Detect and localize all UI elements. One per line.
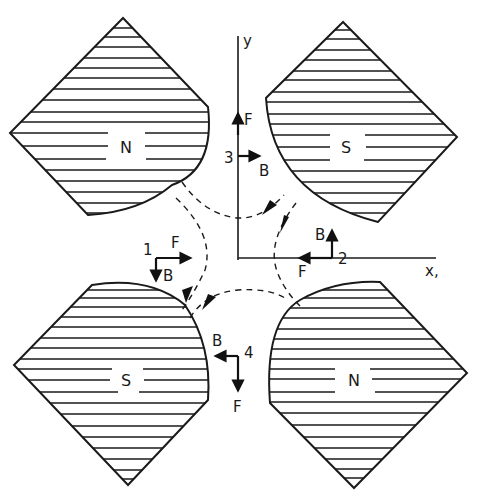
position-1-force-label: F xyxy=(171,236,180,251)
position-3-force-label: F xyxy=(244,113,253,128)
pole-top-right-south xyxy=(250,22,480,222)
position-2-force-label: F xyxy=(298,265,307,280)
y-axis-label: y xyxy=(243,34,252,49)
position-4-force-label: F xyxy=(233,400,242,415)
pole-top-left-north xyxy=(0,18,230,215)
pole-label-bottom-right: N xyxy=(348,373,360,389)
position-1-field-label: B xyxy=(163,269,173,284)
pole-label-bottom-left: S xyxy=(121,373,131,389)
position-4-field-label: B xyxy=(212,334,222,349)
position-3-number: 3 xyxy=(224,151,234,166)
pole-label-top-left: N xyxy=(120,140,132,156)
position-2-field-label: B xyxy=(315,228,325,243)
pole-bottom-right-north xyxy=(250,282,480,488)
x-axis-label: x, xyxy=(425,264,439,279)
position-3-field-label: B xyxy=(259,164,269,179)
position-2-number: 2 xyxy=(338,252,348,267)
position-4-number: 4 xyxy=(244,346,254,361)
pole-label-top-right: S xyxy=(341,140,351,156)
arrowhead-icon xyxy=(280,215,289,233)
vectors-position-4 xyxy=(216,356,238,390)
pole-bottom-left-south xyxy=(0,283,230,485)
position-1-number: 1 xyxy=(143,243,153,258)
arrowhead-icon xyxy=(202,294,216,310)
arrowhead-icon xyxy=(182,286,193,303)
quadrupole-diagram xyxy=(0,0,480,502)
arrowhead-icon xyxy=(262,200,277,215)
